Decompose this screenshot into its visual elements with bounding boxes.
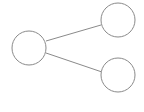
edge-root-to-child-bottom <box>46 53 102 72</box>
node-root <box>12 31 46 65</box>
edge-root-to-child-top <box>46 25 101 41</box>
node-child-top <box>101 3 135 37</box>
tree-diagram <box>0 0 144 112</box>
edges-group <box>46 25 102 72</box>
node-child-bottom <box>101 58 135 92</box>
nodes-group <box>12 3 135 92</box>
